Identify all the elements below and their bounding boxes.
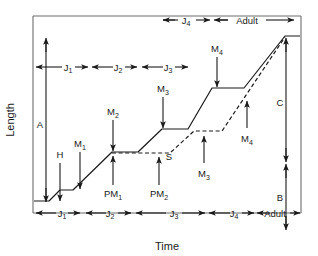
marker-m4: M4 (211, 43, 223, 87)
growth-diagram-svg: Length Time J4 Adult (0, 0, 318, 256)
upper-bracket-j2: J2 (92, 62, 137, 75)
marker-m4-lower-label: M (241, 133, 249, 144)
marker-m2-label: M (107, 106, 115, 117)
upper-bracket-j3: J3 (142, 62, 188, 75)
marker-m3-label: M (157, 83, 165, 94)
measure-a: A (37, 38, 46, 202)
bottom-bracket-adult-label: Adult (264, 208, 286, 219)
marker-m1-label: M (74, 138, 82, 149)
marker-m3-lower-label: M (198, 168, 206, 179)
marker-m3-lower: M3 (198, 136, 210, 181)
marker-m3: M3 (157, 83, 169, 128)
marker-s-label: S (166, 151, 172, 162)
marker-m1: M1 (74, 138, 86, 189)
svg-text:J2: J2 (114, 62, 123, 75)
marker-pm1: PM1 (104, 156, 122, 201)
svg-text:J3: J3 (164, 62, 173, 75)
svg-text:J1: J1 (64, 62, 73, 75)
svg-text:J1: J1 (58, 208, 67, 221)
marker-m4-sub: 4 (219, 49, 223, 56)
marker-m2: M2 (107, 106, 119, 151)
svg-text:M4: M4 (241, 133, 253, 146)
marker-m2-sub: 2 (115, 112, 119, 119)
upper-bracket-j2-sub: 2 (118, 67, 122, 74)
marker-m4-lower-sub: 4 (249, 139, 253, 146)
svg-text:M1: M1 (74, 138, 86, 151)
marker-h-label: H (57, 149, 64, 160)
plot-frame (33, 16, 301, 213)
marker-m4-lower: M4 (241, 101, 253, 146)
upper-bracket-j3-sub: 3 (168, 67, 172, 74)
marker-pm1-sub: 1 (118, 194, 122, 201)
marker-m3-sub: 3 (165, 89, 169, 96)
bottom-bracket-j3: J3 (136, 208, 205, 221)
bottom-bracket-row: J1 J2 J3 J4 (36, 208, 300, 221)
y-axis-label: Length (4, 103, 16, 137)
bottom-bracket-j1: J1 (36, 208, 80, 221)
svg-text:PM1: PM1 (104, 188, 122, 201)
svg-text:J4: J4 (230, 208, 239, 221)
measure-a-label: A (37, 119, 44, 130)
measure-c: C (277, 38, 286, 162)
bottom-bracket-j1-sub: 1 (62, 213, 66, 220)
bottom-bracket-j4: J4 (209, 208, 254, 221)
svg-text:M3: M3 (157, 83, 169, 96)
marker-m4-label: M (211, 43, 219, 54)
svg-text:M2: M2 (107, 106, 119, 119)
dashed-growth-curve (112, 37, 285, 153)
bottom-bracket-j2: J2 (86, 208, 131, 221)
svg-text:J2: J2 (106, 208, 115, 221)
marker-pm1-label: PM (104, 188, 118, 199)
marker-m3-lower-sub: 3 (206, 174, 210, 181)
svg-text:PM2: PM2 (150, 188, 168, 201)
measure-c-label: C (277, 97, 284, 108)
diagram-canvas: Length Time J4 Adult (0, 0, 318, 256)
top-bracket-adult-label: Adult (236, 15, 258, 26)
upper-bracket-j1-sub: 1 (68, 67, 72, 74)
measure-b-label: B (277, 192, 283, 203)
svg-text:M3: M3 (198, 168, 210, 181)
svg-text:M4: M4 (211, 43, 223, 56)
bottom-bracket-adult: Adult (257, 208, 300, 219)
bottom-bracket-j2-sub: 2 (110, 213, 114, 220)
upper-bracket-j1: J1 (36, 62, 88, 75)
measure-b: B (277, 164, 286, 230)
marker-m1-sub: 1 (82, 144, 86, 151)
svg-text:J3: J3 (170, 208, 179, 221)
bottom-bracket-j4-sub: 4 (234, 213, 238, 220)
top-bracket-j4-sub: 4 (186, 20, 190, 27)
marker-pm2: PM2 (150, 157, 168, 201)
marker-pm2-sub: 2 (164, 194, 168, 201)
x-axis-label: Time (155, 240, 179, 252)
upper-bracket-row: J1 J2 J3 (36, 62, 188, 75)
bottom-bracket-j3-sub: 3 (174, 213, 178, 220)
marker-pm2-label: PM (150, 188, 164, 199)
